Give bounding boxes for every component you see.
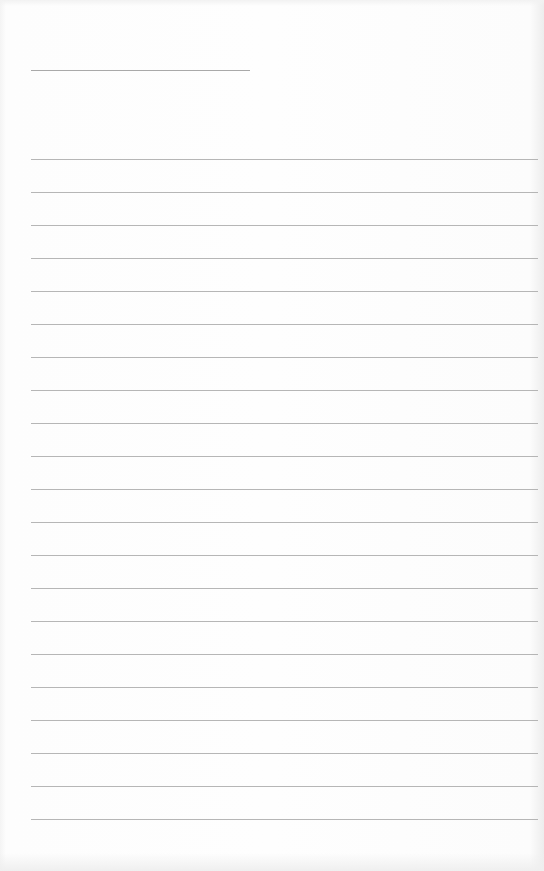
page-top-edge xyxy=(0,0,544,6)
ruled-line xyxy=(31,357,538,358)
ruled-line xyxy=(31,555,538,556)
ruled-line xyxy=(31,192,538,193)
ruled-line xyxy=(31,522,538,523)
ruled-line xyxy=(31,819,538,820)
ruled-line xyxy=(31,786,538,787)
ruled-line xyxy=(31,456,538,457)
ruled-line xyxy=(31,753,538,754)
ruled-line xyxy=(31,291,538,292)
ruled-line xyxy=(31,687,538,688)
ruled-line xyxy=(31,225,538,226)
page-bottom-edge xyxy=(0,853,544,871)
ruled-line xyxy=(31,720,538,721)
ruled-line xyxy=(31,258,538,259)
ruled-line xyxy=(31,588,538,589)
ruled-line xyxy=(31,390,538,391)
ruled-line xyxy=(31,654,538,655)
ruled-line xyxy=(31,324,538,325)
ruled-line xyxy=(31,423,538,424)
ruled-line xyxy=(31,621,538,622)
ruled-line xyxy=(31,159,538,160)
lined-paper-page xyxy=(0,0,544,871)
ruled-line xyxy=(31,489,538,490)
title-line xyxy=(31,70,250,71)
